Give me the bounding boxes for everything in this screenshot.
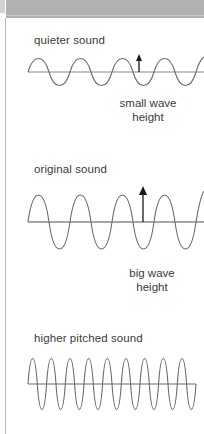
sine-curve-original (28, 191, 204, 249)
amplitude-arrow-original (139, 186, 147, 222)
caption-small-wave-height: small wave height (102, 96, 194, 124)
label-original-sound: original sound (34, 163, 107, 175)
sine-curve-quieter (28, 57, 204, 86)
waveform-quieter-sound (6, 52, 204, 94)
amplitude-arrow-quieter (136, 54, 142, 72)
label-higher-pitched-sound: higher pitched sound (34, 332, 143, 344)
diagram-page: quieter sound small wave height original… (0, 0, 204, 434)
waveform-higher-pitched-sound (6, 352, 204, 432)
label-quieter-sound: quieter sound (34, 34, 105, 46)
top-banner-left-tab (0, 0, 5, 13)
top-banner-highlight (0, 15, 204, 16)
waveform-original-sound (6, 182, 204, 264)
caption-big-wave-height: big wave height (106, 266, 198, 294)
